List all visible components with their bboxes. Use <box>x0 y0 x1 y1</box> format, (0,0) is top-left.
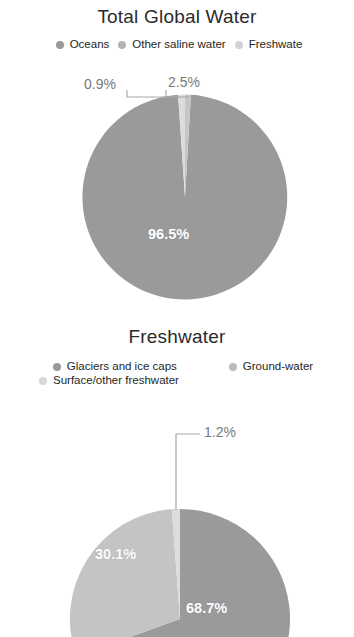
chart-title-total-global-water: Total Global Water <box>0 0 354 28</box>
legend-label: Ground-water <box>243 360 313 373</box>
legend-item-surface-other-freshwater[interactable]: Surface/other freshwater <box>39 374 179 387</box>
legend-label: Oceans <box>70 38 110 51</box>
callout-label-12: 1.2% <box>204 424 236 440</box>
legend-swatch-icon <box>229 363 237 371</box>
chart-title-freshwater: Freshwater <box>0 318 354 348</box>
legend-label: Other saline water <box>132 38 225 51</box>
chart-freshwater: Freshwater Glaciers and ice caps Ground-… <box>0 318 354 637</box>
callout-label-25: 2.5% <box>168 74 200 90</box>
legend-label: Freshwate <box>249 38 303 51</box>
pie-chart-freshwater <box>0 392 354 637</box>
slice-label-glaciers-and-ice-caps: 68.7% <box>186 600 227 616</box>
page-root: Total Global Water Oceans Other saline w… <box>0 0 354 637</box>
legend-label: Surface/other freshwater <box>53 374 179 387</box>
legend-item-freshwater[interactable]: Freshwate <box>235 38 303 51</box>
slice-label-oceans: 96.5% <box>148 226 189 242</box>
legend-swatch-icon <box>118 41 126 49</box>
legend-item-ground-water[interactable]: Ground-water <box>229 360 313 373</box>
callout-label-09: 0.9% <box>84 76 116 92</box>
chart-total-global-water: Total Global Water Oceans Other saline w… <box>0 0 354 310</box>
legend-swatch-icon <box>53 363 61 371</box>
leader-line-12 <box>176 434 200 510</box>
slice-label-ground-water: 30.1% <box>95 546 136 562</box>
legend-label: Glaciers and ice caps <box>67 360 177 373</box>
pie-chart-total-global-water <box>0 70 354 310</box>
legend-swatch-icon <box>39 377 47 385</box>
pie-container-total-global-water: 0.9% 2.5% 96.5% <box>0 70 354 310</box>
pie-container-freshwater: 1.2% 30.1% 68.7% <box>0 392 354 637</box>
legend-item-glaciers-and-ice-caps[interactable]: Glaciers and ice caps <box>53 360 177 373</box>
legend-freshwater: Glaciers and ice caps Ground-water Surfa… <box>0 360 354 388</box>
legend-item-other-saline-water[interactable]: Other saline water <box>118 38 225 51</box>
legend-item-oceans[interactable]: Oceans <box>56 38 110 51</box>
legend-swatch-icon <box>235 41 243 49</box>
legend-swatch-icon <box>56 41 64 49</box>
pie-slice-ground-water[interactable] <box>70 509 180 637</box>
legend-total-global-water: Oceans Other saline water Freshwate <box>0 38 354 53</box>
